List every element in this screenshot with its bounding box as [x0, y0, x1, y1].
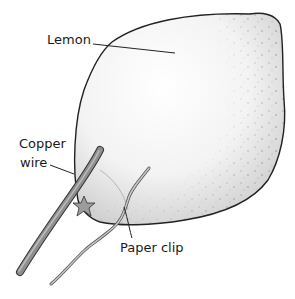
lemon-label: Lemon: [47, 32, 91, 47]
paper-clip-label: Paper clip: [120, 240, 184, 255]
copper-wire-leader-line: [50, 165, 74, 174]
copper-wire-label-line2: wire: [20, 155, 47, 170]
lemon: [70, 10, 290, 230]
lemon-battery-diagram: Lemon Copper wire Paper clip: [0, 0, 295, 299]
copper-wire-label-line1: Copper: [19, 136, 66, 151]
